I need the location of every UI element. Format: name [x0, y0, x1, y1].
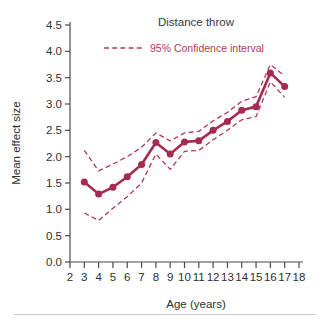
- confidence-interval-line: [84, 65, 284, 171]
- data-point-marker: [281, 83, 288, 90]
- x-axis-title: Age (years): [166, 298, 226, 310]
- x-tick-label: 5: [110, 271, 116, 283]
- y-tick-label: 3.0: [46, 98, 62, 110]
- chart-title: Distance throw: [158, 16, 235, 28]
- x-tick-label: 4: [95, 271, 102, 283]
- y-tick-label: 0.5: [46, 230, 62, 242]
- footer-divider: [14, 314, 315, 315]
- x-tick-label: 11: [193, 271, 205, 283]
- x-tick-label: 7: [138, 271, 144, 283]
- x-axis: 23456789101112131415161718: [67, 262, 306, 283]
- data-point-marker: [253, 103, 260, 110]
- data-point-marker: [267, 69, 274, 76]
- y-axis: 0.00.51.01.52.02.53.03.54.04.5: [46, 19, 70, 268]
- y-tick-label: 3.5: [46, 72, 62, 84]
- y-axis-title: Mean effect size: [10, 101, 22, 185]
- data-point-marker: [95, 191, 102, 198]
- y-tick-label: 0.0: [46, 256, 62, 268]
- x-tick-label: 2: [67, 271, 73, 283]
- x-tick-label: 12: [207, 271, 220, 283]
- data-point-marker: [224, 118, 231, 125]
- data-point-marker: [210, 127, 217, 134]
- x-tick-label: 15: [250, 271, 263, 283]
- y-tick-label: 2.5: [46, 124, 62, 136]
- y-tick-label: 4.5: [46, 19, 62, 31]
- data-point-marker: [238, 107, 245, 114]
- data-point-marker: [81, 178, 88, 185]
- chart-figure: 0.00.51.01.52.02.53.03.54.04.5 234567891…: [0, 0, 329, 322]
- x-tick-label: 18: [293, 271, 306, 283]
- x-tick-label: 8: [153, 271, 159, 283]
- legend: 95% Confidence interval: [104, 42, 264, 54]
- x-tick-label: 6: [124, 271, 130, 283]
- x-tick-label: 14: [235, 271, 248, 283]
- data-point-marker: [138, 161, 145, 168]
- data-point-marker: [124, 173, 131, 180]
- data-point-marker: [181, 138, 188, 145]
- y-tick-label: 2.0: [46, 151, 62, 163]
- y-tick-label: 4.0: [46, 45, 62, 57]
- data-point-marker: [152, 139, 159, 146]
- data-point-marker: [167, 151, 174, 158]
- data-point-marker: [195, 137, 202, 144]
- y-tick-label: 1.5: [46, 177, 62, 189]
- x-tick-label: 9: [167, 271, 173, 283]
- confidence-interval-line: [84, 82, 284, 221]
- data-point-marker: [109, 184, 116, 191]
- legend-label-confidence-interval: 95% Confidence interval: [150, 42, 264, 54]
- y-tick-label: 1.0: [46, 203, 62, 215]
- distance-throw-line-chart: 0.00.51.01.52.02.53.03.54.04.5 234567891…: [0, 0, 329, 322]
- x-tick-label: 16: [264, 271, 277, 283]
- x-tick-label: 10: [178, 271, 191, 283]
- x-tick-label: 3: [81, 271, 87, 283]
- x-tick-label: 13: [221, 271, 234, 283]
- x-tick-label: 17: [278, 271, 291, 283]
